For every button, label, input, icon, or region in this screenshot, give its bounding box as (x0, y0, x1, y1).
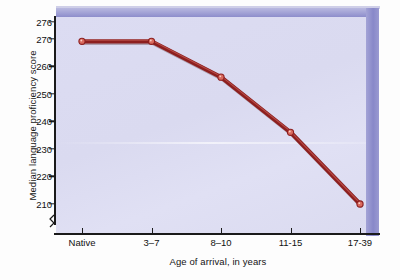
data-point-marker (218, 74, 224, 80)
line-path (82, 41, 360, 204)
data-point-marker (148, 38, 154, 44)
data-point-marker (79, 38, 85, 44)
y-axis-title: Median language proficiency score (27, 16, 38, 236)
data-series-line (0, 0, 400, 280)
chart-figure: 276270260250240230220210 Native3–78–1011… (0, 0, 400, 280)
line-shadow (83, 43, 361, 206)
data-point-marker (357, 201, 363, 207)
line-highlight (82, 40, 360, 203)
x-axis-title: Age of arrival, in years (0, 256, 400, 267)
data-point-marker (287, 129, 293, 135)
x-axis-title-text: Age of arrival, in years (170, 256, 267, 267)
